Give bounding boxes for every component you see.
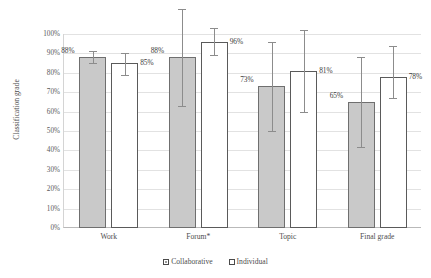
error-cap-upper	[268, 42, 276, 43]
error-bar	[93, 51, 94, 63]
bar-value-label: 73%	[240, 75, 253, 84]
bar-value-label: 81%	[319, 66, 332, 75]
error-cap-upper	[210, 28, 218, 29]
error-cap-lower	[178, 106, 186, 107]
y-axis-tick-label: 40%	[18, 146, 60, 154]
outline-white-square-icon	[229, 259, 235, 265]
filled-gray-square-icon	[163, 259, 169, 265]
legend-label: Individual	[237, 257, 268, 266]
error-cap-upper	[121, 53, 129, 54]
error-cap-lower	[357, 147, 365, 148]
legend-label: Collaborative	[171, 257, 212, 266]
y-axis-tick-label: 20%	[18, 185, 60, 193]
bar-value-label: 96%	[230, 37, 243, 46]
bar-individual-forum-	[201, 42, 228, 228]
error-cap-lower	[389, 98, 397, 99]
error-bar	[304, 30, 305, 111]
category-group: 65%78%Final grade	[333, 34, 423, 228]
y-axis-tick-label: 70%	[18, 88, 60, 96]
bar-collaborative-work	[79, 57, 106, 228]
category-group: 88%85%Work	[64, 34, 154, 228]
error-cap-upper	[178, 9, 186, 10]
x-axis-category-label: Forum*	[154, 232, 244, 241]
bar-individual-work	[111, 63, 138, 228]
x-axis-category-label: Work	[64, 232, 154, 241]
error-bar	[361, 57, 362, 146]
error-cap-upper	[389, 46, 397, 47]
bar-value-label: 85%	[140, 58, 153, 67]
error-cap-lower	[121, 75, 129, 76]
chart-legend: CollaborativeIndividual	[0, 257, 431, 266]
error-cap-lower	[89, 63, 97, 64]
error-cap-upper	[357, 57, 365, 58]
error-bar	[182, 9, 183, 106]
bar-value-label: 78%	[409, 72, 422, 81]
y-axis-tick-label: 80%	[18, 69, 60, 77]
legend-item-individual[interactable]: Individual	[229, 257, 268, 266]
error-bar	[272, 42, 273, 131]
error-cap-lower	[268, 131, 276, 132]
category-group: 73%81%Topic	[243, 34, 333, 228]
y-axis-tick-label: 90%	[18, 49, 60, 57]
y-axis-tick-label: 30%	[18, 166, 60, 174]
error-bar	[214, 28, 215, 55]
error-cap-upper	[89, 51, 97, 52]
error-cap-upper	[300, 30, 308, 31]
bar-value-label: 88%	[151, 46, 164, 55]
category-group: 88%96%Forum*	[154, 34, 244, 228]
error-bar	[393, 46, 394, 98]
y-axis-tick-label: 10%	[18, 205, 60, 213]
x-axis-category-label: Topic	[243, 232, 333, 241]
plot-area: 88%85%Work88%96%Forum*73%81%Topic65%78%F…	[63, 34, 421, 228]
y-axis-tick-label: 0%	[18, 224, 60, 232]
error-cap-lower	[210, 55, 218, 56]
error-cap-lower	[300, 112, 308, 113]
bar-value-label: 88%	[61, 46, 74, 55]
y-axis-tick-label: 50%	[18, 127, 60, 135]
legend-item-collaborative[interactable]: Collaborative	[163, 257, 212, 266]
bar-chart: Classification grade 100%90%80%70%60%50%…	[0, 0, 431, 278]
y-axis-tick-label: 60%	[18, 108, 60, 116]
bar-value-label: 65%	[330, 91, 343, 100]
bar-individual-final-grade	[380, 77, 407, 228]
x-axis-category-label: Final grade	[333, 232, 423, 241]
y-axis-tick-label: 100%	[18, 30, 60, 38]
error-bar	[125, 53, 126, 74]
